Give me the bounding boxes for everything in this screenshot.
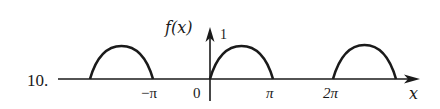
y-tick-label: 1 (220, 28, 227, 42)
x-tick-label-pi: π (266, 86, 274, 101)
curve-arc-right (333, 45, 396, 79)
y-axis-label: f(x) (165, 20, 192, 36)
curve-arc-left (90, 46, 153, 79)
problem-number: 10. (27, 72, 48, 89)
x-tick-label-neg-pi: −π (141, 86, 157, 101)
curve-arc-middle (210, 46, 273, 79)
x-tick-label-two-pi: 2π (323, 86, 338, 101)
x-axis-label: x (409, 86, 418, 102)
x-tick-label-zero: 0 (193, 86, 201, 101)
function-graph (0, 0, 440, 109)
